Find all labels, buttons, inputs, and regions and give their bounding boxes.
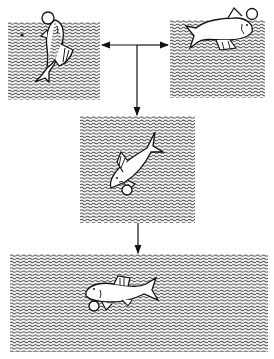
flow-arrows: [0, 0, 274, 359]
